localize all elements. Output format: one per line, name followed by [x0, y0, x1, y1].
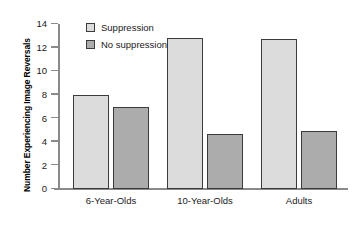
y-axis-tick-label: 8 — [42, 88, 47, 99]
y-axis-tick: 10 — [51, 70, 58, 72]
y-axis-tick-label: 12 — [36, 41, 47, 52]
legend: SuppressionNo suppression — [86, 19, 167, 53]
y-axis-line — [58, 24, 60, 189]
bar-no-suppression-10-year-olds — [207, 134, 243, 189]
y-axis-tick: 4 — [51, 140, 58, 142]
bar-suppression-10-year-olds — [167, 38, 203, 189]
x-axis-category-label: 10-Year-Olds — [158, 195, 252, 206]
y-axis-tick-label: 0 — [42, 183, 47, 194]
x-axis-category-label: Adults — [252, 195, 346, 206]
y-axis-tick: 2 — [51, 164, 58, 166]
legend-item: Suppression — [86, 19, 167, 36]
bar-no-suppression-adults — [301, 131, 337, 189]
bar-suppression-adults — [261, 39, 297, 189]
legend-item: No suppression — [86, 36, 167, 53]
y-axis-tick: 0 — [51, 188, 58, 190]
y-axis-tick-label: 2 — [42, 159, 47, 170]
bar-suppression-6-year-olds — [73, 95, 109, 189]
y-axis-tick-label: 4 — [42, 136, 47, 147]
bar-no-suppression-6-year-olds — [113, 107, 149, 190]
suppression-swatch — [86, 23, 95, 32]
y-axis-tick-label: 14 — [36, 18, 47, 29]
legend-item-label: No suppression — [101, 39, 167, 50]
y-axis-title: Number Experiencing Image Reversals — [18, 0, 36, 230]
y-axis-tick-label: 10 — [36, 65, 47, 76]
legend-item-label: Suppression — [101, 22, 154, 33]
x-axis-category-label: 6-Year-Olds — [64, 195, 158, 206]
y-axis-tick-label: 6 — [42, 112, 47, 123]
y-axis-tick: 14 — [51, 23, 58, 25]
y-axis-tick: 8 — [51, 93, 58, 95]
y-axis-tick: 6 — [51, 117, 58, 119]
no-suppression-swatch — [86, 40, 95, 49]
bar-chart: Number Experiencing Image Reversals 0246… — [0, 0, 358, 230]
y-axis-tick: 12 — [51, 46, 58, 48]
